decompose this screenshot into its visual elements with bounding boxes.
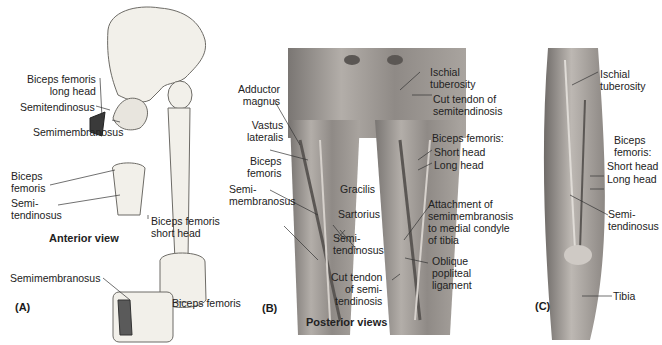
label-semitendinosus: Semitendinosus [20, 101, 95, 113]
label-semitendinosus-b: Semi- tendinosus [333, 232, 384, 256]
label-ischial-tuberosity-b: Ischial tuberosity [430, 66, 476, 90]
label-biceps-femoris-long-head: Biceps femoris long head [27, 73, 96, 97]
label-biceps-femoris-b: Biceps femoris [247, 155, 281, 179]
label-short-head-b: Short head [434, 146, 485, 158]
label-adductor-magnus: Adductor magnus [238, 83, 280, 107]
caption-posterior-views: Posterior views [306, 316, 387, 328]
label-long-head-b: Long head [434, 159, 484, 171]
panel-tag-a: (A) [15, 301, 30, 313]
label-semimembranosus-insertion: Semimembranosus [10, 272, 100, 284]
caption-anterior-view: Anterior view [49, 232, 119, 244]
label-semimembranosus-origin: Semimembranosus [33, 126, 123, 138]
label-biceps-femoris-short-head: Biceps femoris short head [151, 215, 220, 239]
label-vastus-lateralis: Vastus lateralis [247, 119, 283, 143]
label-semitendinosus-inset: Semi- tendinosus [11, 197, 62, 221]
label-cut-tendon-bottom: Cut tendon of semi- tendinosis [331, 271, 382, 307]
label-short-head-c: Short head [607, 160, 658, 172]
label-gracilis: Gracilis [340, 183, 375, 195]
label-biceps-femoris-inset: Biceps femoris [11, 170, 45, 194]
label-biceps-femoris-c: Biceps femoris: [614, 134, 651, 158]
label-long-head-c: Long head [607, 173, 657, 185]
label-oblique-popliteal-ligament: Oblique popliteal ligament [432, 255, 472, 291]
label-semitendinosus-c: Semi- tendinosus [608, 208, 659, 232]
label-semimembranosus-b: Semi- membranosus [229, 183, 296, 207]
label-biceps-femoris-insertion: Biceps femoris [172, 297, 241, 309]
label-tibia: Tibia [613, 290, 635, 302]
label-ischial-tuberosity-c: Ischial tuberosity [600, 68, 646, 92]
label-cut-tendon-top: Cut tendon of semitendinosis [433, 93, 502, 117]
panel-a-bone-drawing [90, 7, 206, 342]
panel-tag-b: (B) [262, 302, 277, 314]
label-sartorius: Sartorius [338, 208, 380, 220]
label-semimembranosus-attachment: Attachment of semimembranosis to medial … [428, 198, 513, 246]
label-biceps-femoris-heads-b: Biceps femoris: [432, 132, 504, 144]
panel-tag-c: (C) [535, 300, 550, 312]
